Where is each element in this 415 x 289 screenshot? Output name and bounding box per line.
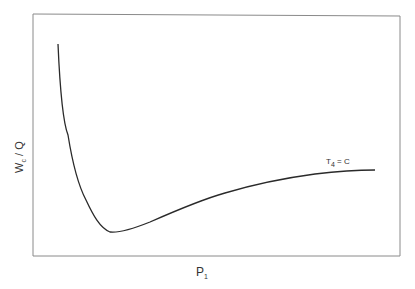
plot-frame [33, 14, 400, 256]
curve-annotation: T4 = C [326, 157, 350, 168]
x-axis-label: P1 [196, 265, 208, 280]
curve-t4-constant [58, 44, 375, 232]
chart-canvas [0, 0, 415, 289]
y-axis-label: Wc / Q [13, 137, 27, 177]
